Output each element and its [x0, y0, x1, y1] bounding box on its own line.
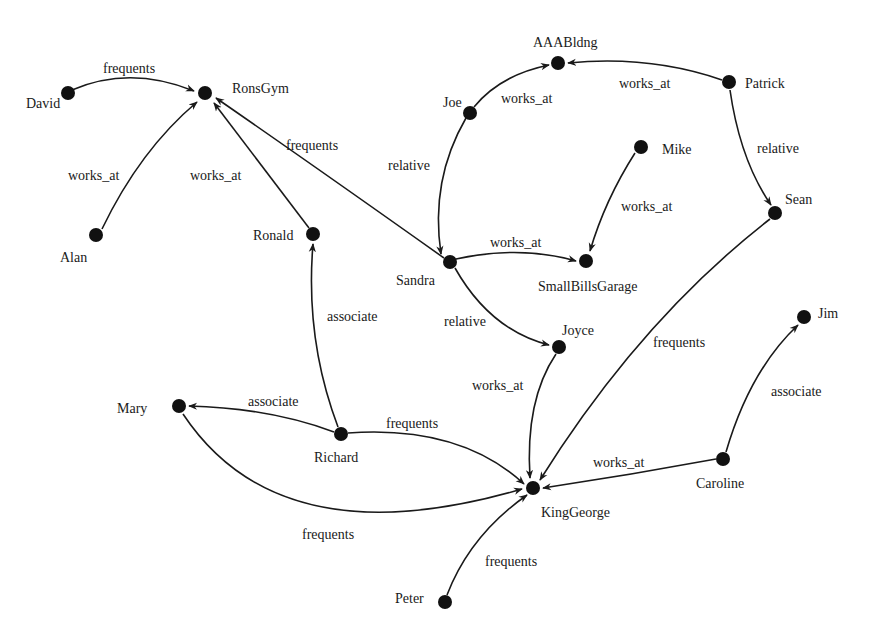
edge-alan-to-rons-gym: [102, 102, 197, 229]
edge-label-frequents: frequents: [302, 527, 354, 542]
node-mike: [634, 140, 648, 154]
node-ronald: [306, 227, 320, 241]
node-joyce: [552, 340, 566, 354]
node-label-caroline: Caroline: [696, 476, 744, 491]
edge-joe-to-sandra: [438, 118, 466, 254]
node-label-patrick: Patrick: [745, 76, 785, 91]
node-label-small-bills-garage: SmallBillsGarage: [538, 279, 638, 294]
edge-label-frequents: frequents: [653, 335, 705, 350]
node-peter: [438, 595, 452, 609]
node-label-peter: Peter: [395, 591, 424, 606]
node-label-david: David: [26, 96, 60, 111]
node-label-joe: Joe: [443, 95, 462, 110]
node-label-joyce: Joyce: [562, 323, 594, 338]
edge-label-associate: associate: [771, 384, 822, 399]
edge-label-relative: relative: [444, 314, 486, 329]
node-caroline: [716, 452, 730, 466]
edge-label-works-at: works_at: [621, 199, 672, 214]
node-label-mary: Mary: [117, 401, 147, 416]
node-label-sandra: Sandra: [396, 273, 436, 288]
edge-sandra-to-small-bills-garage: [456, 252, 576, 261]
node-label-king-george: KingGeorge: [541, 505, 610, 520]
edge-label-works-at: works_at: [472, 378, 523, 393]
node-label-richard: Richard: [314, 450, 358, 465]
node-label-aaabldng: AAABldng: [533, 35, 598, 50]
edge-label-frequents: frequents: [485, 554, 537, 569]
node-king-george: [526, 481, 540, 495]
edge-sandra-to-rons-gym: [216, 98, 444, 258]
edge-label-layer: frequentsworks_atworks_atfrequentsworks_…: [68, 61, 822, 569]
edge-label-works-at: works_at: [190, 168, 241, 183]
edge-label-works-at: works_at: [490, 235, 541, 250]
node-rons-gym: [198, 86, 212, 100]
edge-label-frequents: frequents: [386, 416, 438, 431]
node-small-bills-garage: [579, 254, 593, 268]
node-richard: [334, 427, 348, 441]
node-label-mike: Mike: [662, 142, 692, 157]
node-sandra: [443, 255, 457, 269]
node-david: [61, 86, 75, 100]
node-label-ronald: Ronald: [253, 228, 293, 243]
edge-richard-to-king-george: [348, 432, 524, 484]
edge-peter-to-king-george: [447, 495, 527, 595]
node-alan: [89, 228, 103, 242]
node-patrick: [722, 75, 736, 89]
node-layer: [61, 56, 811, 609]
node-label-jim: Jim: [818, 306, 838, 321]
edge-richard-to-ronald: [311, 244, 338, 427]
node-label-sean: Sean: [785, 192, 812, 207]
edge-richard-to-mary: [189, 406, 334, 432]
node-joe: [463, 106, 477, 120]
edge-ronald-to-rons-gym: [214, 103, 309, 228]
edge-label-relative: relative: [388, 158, 430, 173]
node-label-layer: DavidRonsGymAlanRonaldJoeAAABldngPatrick…: [26, 35, 838, 606]
edge-label-works-at: works_at: [619, 76, 670, 91]
edge-label-frequents: frequents: [286, 138, 338, 153]
edge-label-relative: relative: [757, 141, 799, 156]
edge-label-associate: associate: [248, 394, 299, 409]
node-aaabldng: [551, 56, 565, 70]
node-label-alan: Alan: [60, 250, 87, 265]
edge-label-works-at: works_at: [593, 455, 644, 470]
node-label-rons-gym: RonsGym: [232, 81, 289, 96]
edge-label-works-at: works_at: [501, 91, 552, 106]
node-mary: [172, 399, 186, 413]
edge-label-associate: associate: [327, 309, 378, 324]
node-jim: [797, 310, 811, 324]
node-sean: [768, 206, 782, 220]
edge-joyce-to-king-george: [529, 354, 556, 478]
edge-david-to-rons-gym: [72, 78, 194, 91]
edge-label-works-at: works_at: [68, 168, 119, 183]
edge-label-frequents: frequents: [103, 61, 155, 76]
edge-sandra-to-joyce: [455, 268, 549, 345]
graph-canvas: frequentsworks_atworks_atfrequentsworks_…: [0, 0, 873, 644]
